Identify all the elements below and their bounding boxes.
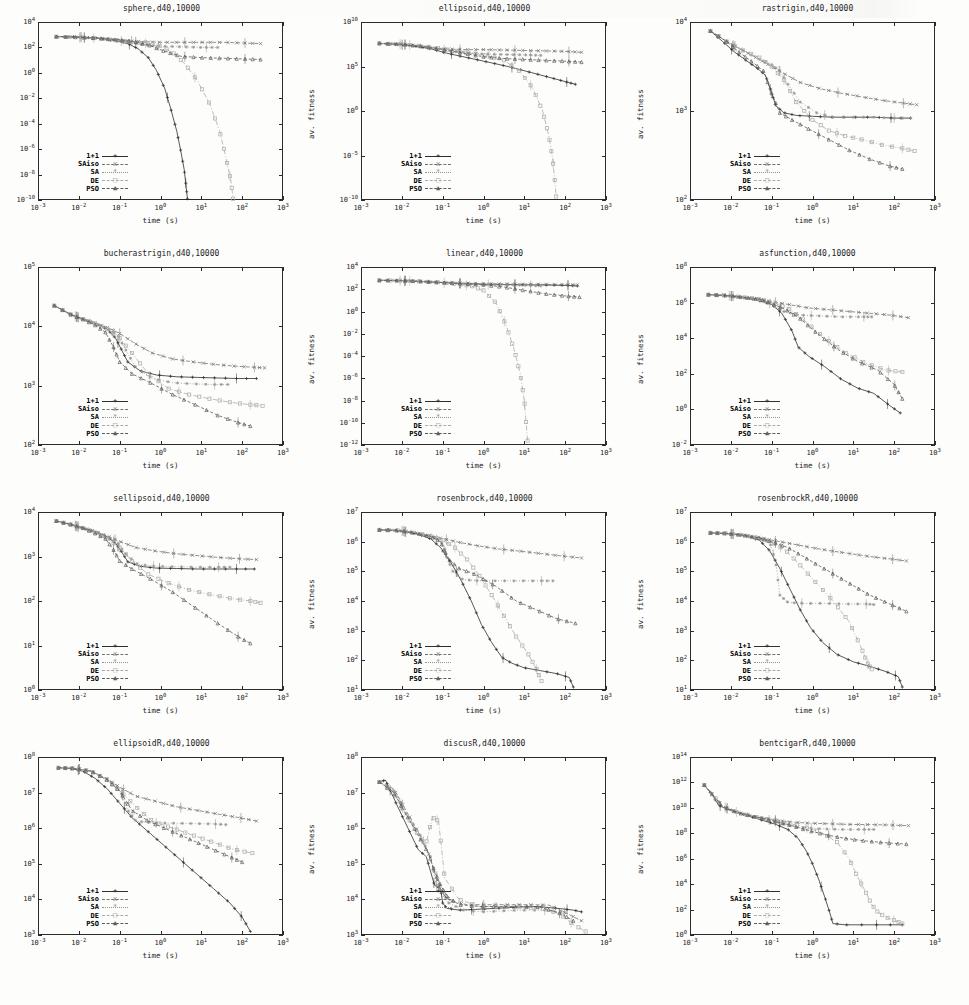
series-marker-1+1	[857, 662, 860, 665]
x-tick-label: 10-1	[435, 939, 450, 947]
plot-panel-rosenbrockR: rosenbrockR,d40,100001071061051041031021…	[646, 490, 969, 735]
series-marker-DE	[200, 88, 203, 91]
series-marker-SA	[872, 116, 875, 119]
x-tick-label: 10-2	[394, 204, 409, 212]
x-tick-mark	[283, 931, 284, 935]
x-tick-label: 10-1	[112, 449, 127, 457]
x-tick-label: 100	[155, 939, 167, 947]
series-marker-PSO	[149, 577, 152, 580]
legend-key-1+1: +	[754, 397, 780, 405]
series-marker-PSO	[901, 167, 904, 170]
plot-title: ellipsoidR,d40,10000	[0, 739, 323, 748]
x-tick-label: 103	[929, 694, 941, 702]
plot-title: bentcigarR,d40,10000	[646, 739, 969, 748]
series-line-SAiso	[54, 306, 264, 368]
series-marker-SA	[189, 565, 192, 568]
series-marker-SA	[499, 53, 502, 56]
x-tick-label: 10-1	[435, 694, 450, 702]
legend-item-1+1: 1+1+	[52, 887, 128, 895]
legend-item-1+1: 1+1+	[375, 887, 451, 895]
y-tick-label: 105	[4, 263, 35, 271]
series-marker-SA	[799, 101, 802, 104]
legend-label: DE	[69, 912, 102, 920]
plot-panel-discusR: discusR,d40,1000010810710610510410310-31…	[323, 735, 646, 985]
y-tick-label: 10-8	[327, 397, 358, 405]
y-tick-label: 10-8	[4, 171, 35, 179]
legend-key-PSO: ▲	[102, 430, 128, 438]
x-tick-label: 100	[807, 449, 819, 457]
legend-label: DE	[721, 912, 754, 920]
series-marker-SAiso	[126, 337, 129, 340]
series-marker-SA	[494, 579, 497, 582]
series-marker-DE	[861, 649, 864, 652]
series-line-SAiso	[58, 768, 256, 821]
series-marker-DE	[577, 926, 580, 929]
x-tick-label: 10-1	[112, 694, 127, 702]
x-axis-label: time (s)	[38, 706, 283, 715]
x-tick-label: 10-3	[30, 204, 45, 212]
series-marker-SA	[551, 579, 554, 582]
y-tick-mark	[279, 200, 283, 201]
x-tick-label: 102	[559, 694, 571, 702]
series-marker-1+1	[476, 58, 479, 61]
series-marker-SA	[833, 828, 836, 831]
series-marker-1+1	[255, 377, 258, 380]
y-tick-mark	[602, 690, 606, 691]
x-tick-label: 101	[518, 449, 530, 457]
x-tick-label: 10-3	[682, 939, 697, 947]
series-marker-SA	[546, 579, 549, 582]
legend-label: 1+1	[69, 887, 102, 895]
series-marker-SA	[750, 53, 753, 56]
y-tick-label: 101	[4, 642, 35, 650]
series-marker-SA	[210, 46, 213, 49]
series-marker-1+1	[784, 318, 787, 321]
series-marker-1+1	[790, 328, 793, 331]
x-tick-label: 10-3	[30, 694, 45, 702]
x-tick-label: 101	[195, 449, 207, 457]
series-marker-SAiso	[572, 915, 575, 918]
y-axis-label: av. fitness	[636, 579, 645, 629]
series-marker-PSO	[572, 919, 575, 922]
legend-label: 1+1	[69, 152, 102, 160]
y-tick-label: 104	[327, 895, 358, 903]
series-marker-1+1	[536, 73, 539, 76]
legend-item-1+1: 1+1+	[52, 152, 128, 160]
y-tick-label: 107	[4, 789, 35, 797]
series-marker-SA	[539, 54, 542, 57]
plot-title: ellipsoid,d40,10000	[323, 4, 646, 13]
legend-label: SA	[69, 658, 102, 666]
series-marker-SA	[518, 53, 521, 56]
x-tick-label: 102	[236, 449, 248, 457]
legend-item-PSO: PSO▲	[704, 675, 780, 683]
plot-panel-rastrigin: rastrigin,d40,1000010410310210-310-210-1…	[646, 0, 969, 245]
y-tick-label: 102	[656, 656, 687, 664]
x-axis-label: time (s)	[361, 951, 606, 960]
x-axis-label: time (s)	[38, 216, 283, 225]
series-marker-SA	[802, 314, 805, 317]
x-tick-mark	[283, 512, 284, 516]
x-tick-label: 102	[888, 939, 900, 947]
series-marker-PSO	[453, 563, 456, 566]
series-marker-1+1	[162, 84, 165, 87]
series-marker-1+1	[244, 922, 247, 925]
x-tick-mark	[283, 441, 284, 445]
series-marker-1+1	[461, 583, 464, 586]
legend-label: DE	[392, 667, 425, 675]
x-tick-mark	[283, 22, 284, 26]
series-marker-SA	[502, 909, 505, 912]
legend-label: PSO	[721, 430, 754, 438]
legend-label: SA	[392, 168, 425, 176]
legend-key-1+1: +	[102, 152, 128, 160]
legend-label: SA	[721, 168, 754, 176]
series-marker-PSO	[560, 294, 563, 297]
series-marker-SAiso	[761, 59, 764, 62]
legend-key-PSO: ▲	[754, 920, 780, 928]
series-marker-SAiso	[915, 103, 918, 106]
series-marker-1+1	[123, 354, 126, 357]
series-marker-DE	[540, 680, 543, 683]
y-tick-label: 103	[4, 382, 35, 390]
y-tick-mark	[931, 935, 935, 936]
x-tick-label: 100	[478, 939, 490, 947]
legend-item-1+1: 1+1+	[375, 152, 451, 160]
series-marker-SAiso	[907, 824, 910, 827]
